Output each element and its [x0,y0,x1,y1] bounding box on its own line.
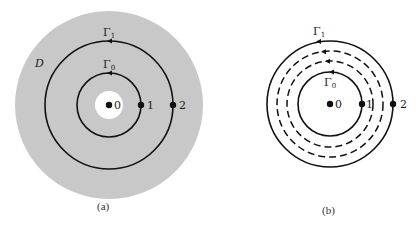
diagram-canvas: 0 1 2 D Γ1 Γ0 (a) 0 1 2 Γ1 Γ0 (b) [0,0,420,225]
caption-a: (a) [97,200,110,213]
region-d-label: D [34,57,44,70]
panel-b: 0 1 2 Γ1 Γ0 (b) [267,25,407,217]
point-2 [390,101,396,107]
point-0 [327,101,333,107]
arrow-left-icon [321,49,326,54]
arrow-left-icon [316,39,321,44]
point-0-label: 0 [114,99,121,112]
point-2-label: 2 [179,99,186,112]
point-1-label: 1 [147,99,154,112]
point-2-label: 2 [400,98,407,111]
point-1 [359,101,365,107]
panel-a: 0 1 2 D Γ1 Γ0 (a) [15,11,203,213]
point-1 [138,102,144,108]
gamma-1-label: Γ1 [313,25,325,39]
point-2 [170,102,176,108]
point-0 [106,102,112,108]
gamma-0-label: Γ0 [324,76,336,90]
point-1-label: 1 [366,98,373,111]
caption-b: (b) [322,204,335,217]
point-0-label: 0 [335,98,342,111]
arrow-left-icon [325,59,330,64]
arrow-left-icon [329,70,334,75]
